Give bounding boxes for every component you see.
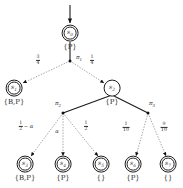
action-node-pi3[interactable] — [147, 112, 150, 115]
probability-label-p-pi2-s4: α — [55, 128, 59, 134]
state-set-label-s1: {B,P} — [4, 98, 25, 106]
state-node-label-s4: s4 — [60, 160, 66, 169]
edge-pi1-s2 — [70, 61, 104, 83]
probability-label-p-pi3-s6: 110 — [123, 122, 130, 132]
state-node-s6[interactable]: s6 — [125, 156, 142, 173]
state-node-s4[interactable]: s4 — [55, 156, 72, 173]
action-node-pi1[interactable] — [69, 60, 72, 63]
action-node-pi2[interactable] — [62, 112, 65, 115]
state-node-label-s1: s1 — [11, 84, 17, 93]
state-node-s5[interactable]: s5 — [93, 156, 110, 173]
probability-label-p-pi2-s3: 12− α — [19, 121, 33, 131]
probability-label-p-s0-pi1-s2: 14 — [90, 55, 94, 65]
state-set-label-s3: {B,P} — [15, 174, 36, 182]
edge-pi3-s6 — [136, 113, 148, 156]
state-set-label-s4: {P} — [56, 174, 70, 182]
probability-label-p-pi2-s5: 12 — [84, 121, 88, 131]
state-node-label-s7: s7 — [165, 160, 171, 169]
state-node-label-s3: s3 — [22, 160, 28, 169]
action-label-pi1: π1 — [76, 54, 82, 62]
state-set-label-s6: {P} — [126, 174, 140, 182]
state-node-label-s5: s5 — [98, 160, 104, 169]
state-set-label-s7: {} — [164, 174, 173, 182]
action-label-pi2: π2 — [55, 100, 61, 108]
edge-pi2-s3 — [31, 113, 63, 156]
edge-pi2-s5 — [63, 113, 98, 156]
state-node-label-s6: s6 — [130, 160, 136, 169]
state-node-label-s2: s2 — [109, 84, 115, 93]
edge-pi3-s7 — [148, 113, 166, 156]
probability-label-p-s0-pi1-s1: 34 — [36, 55, 40, 65]
state-node-s7[interactable]: s7 — [160, 156, 177, 173]
state-node-label-s0: s0 — [67, 29, 73, 38]
diagram-canvas: s0{P}s1{B,P}s2{P}s3{B,P}s4{P}s5{}s6{P}s7… — [0, 0, 183, 188]
state-node-s2[interactable]: s2 — [104, 80, 121, 97]
state-set-label-s0: {P} — [63, 43, 77, 51]
edge-pi1-s1 — [23, 61, 70, 83]
action-label-pi3: π3 — [149, 100, 155, 108]
state-node-s0[interactable]: s0 — [62, 25, 79, 42]
state-set-label-s5: {} — [97, 174, 106, 182]
state-node-s3[interactable]: s3 — [17, 156, 34, 173]
state-set-label-s2: {P} — [105, 98, 119, 106]
probability-label-p-pi3-s7: 910 — [161, 122, 168, 132]
state-node-s1[interactable]: s1 — [6, 80, 23, 97]
